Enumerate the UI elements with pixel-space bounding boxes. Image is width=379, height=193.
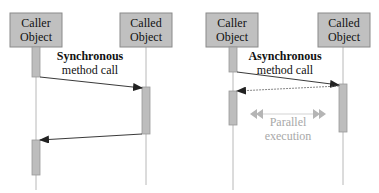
double-chevron-left-icon	[250, 109, 263, 119]
sync-diagram: Caller Object Called Object Synchronous …	[10, 13, 172, 190]
double-chevron-right-icon	[313, 109, 326, 119]
called-activation	[339, 84, 347, 132]
caller-activation-2	[229, 91, 237, 125]
async-caption: method call	[257, 63, 314, 77]
caller-object-label-line2: Object	[216, 30, 249, 44]
async-diagram: Caller Object Called Object Asynchronous…	[206, 13, 370, 190]
parallel-label-line2: execution	[265, 129, 312, 143]
caller-object-label-line1: Caller	[21, 16, 50, 30]
return-arrow	[40, 134, 142, 140]
sync-caption-bold: Synchronous	[57, 49, 124, 63]
parallel-execution-indicator: Parallel execution	[250, 109, 326, 143]
called-object-label-line2: Object	[328, 30, 361, 44]
caller-object-box: Caller Object	[10, 13, 62, 47]
caller-object-box: Caller Object	[206, 13, 258, 47]
sequence-diagrams: Caller Object Called Object Synchronous …	[0, 0, 379, 193]
caller-activation-1	[229, 47, 237, 72]
callback-arrow	[237, 86, 339, 91]
async-caption-bold: Asynchronous	[248, 49, 321, 63]
sync-caption: method call	[62, 63, 119, 77]
caller-object-label-line1: Caller	[217, 16, 246, 30]
caller-activation-2	[32, 140, 40, 175]
called-object-label-line1: Called	[328, 16, 359, 30]
parallel-label-line1: Parallel	[270, 115, 307, 129]
called-object-label-line2: Object	[130, 30, 163, 44]
called-object-box: Called Object	[120, 13, 172, 47]
called-object-label-line1: Called	[130, 16, 161, 30]
called-activation	[142, 87, 150, 134]
call-arrow	[40, 77, 142, 88]
caller-activation-1	[32, 47, 40, 77]
caller-object-label-line2: Object	[20, 30, 53, 44]
called-object-box: Called Object	[318, 13, 370, 47]
